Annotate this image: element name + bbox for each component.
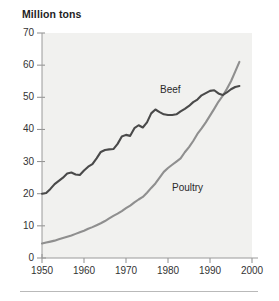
y-tick-label: 20 bbox=[12, 188, 34, 199]
y-tick-label: 60 bbox=[12, 59, 34, 70]
y-tick-label: 70 bbox=[12, 27, 34, 38]
y-tick-label: 0 bbox=[12, 252, 34, 263]
x-tick-label: 1950 bbox=[25, 265, 59, 276]
x-tick-label: 1980 bbox=[151, 265, 185, 276]
x-tick-label: 1970 bbox=[109, 265, 143, 276]
series-label-poultry: Poultry bbox=[172, 182, 203, 193]
x-tick-label: 2000 bbox=[235, 265, 269, 276]
plot-background bbox=[42, 33, 252, 258]
y-tick-label: 40 bbox=[12, 123, 34, 134]
chart-plot-area bbox=[0, 0, 279, 301]
y-tick-label: 50 bbox=[12, 91, 34, 102]
bottom-divider-rule bbox=[20, 291, 258, 292]
x-tick-label: 1960 bbox=[67, 265, 101, 276]
chart-figure: Million tons 010203040506070 19501960197… bbox=[0, 0, 279, 301]
series-label-beef: Beef bbox=[160, 84, 181, 95]
x-tick-label: 1990 bbox=[193, 265, 227, 276]
y-tick-label: 30 bbox=[12, 156, 34, 167]
y-tick-label: 10 bbox=[12, 220, 34, 231]
